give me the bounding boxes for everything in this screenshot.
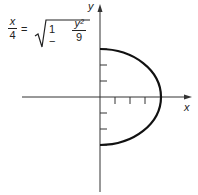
rhs-numerator: y² <box>72 18 86 29</box>
x-axis-arrow-icon <box>184 95 192 100</box>
radical-prefix: 1 − <box>49 23 55 47</box>
rhs-denominator: 9 <box>72 32 86 43</box>
x-ticks <box>115 97 145 104</box>
lhs-fraction: x 4 <box>8 16 17 41</box>
y-axis-label: y <box>88 0 94 12</box>
rhs-fraction: y² 9 <box>72 18 86 43</box>
x-axis-label: x <box>184 101 190 113</box>
lhs-numerator: x <box>8 16 17 27</box>
lhs-denominator: 4 <box>8 30 17 41</box>
chart-plot-area <box>0 0 198 195</box>
equals-sign: = <box>21 23 27 35</box>
y-axis-arrow-icon <box>98 4 103 12</box>
